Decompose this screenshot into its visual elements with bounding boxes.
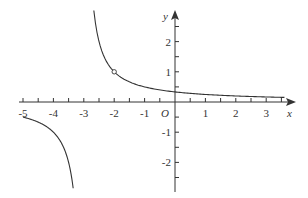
right-branch-curve (94, 10, 285, 97)
function-graph: -5-4-3-2-1123-2-112 x y O (0, 0, 308, 198)
left-branch-curve (23, 117, 73, 188)
y-tick-label: -1 (162, 126, 171, 138)
x-tick-label: 3 (263, 107, 269, 119)
x-tick-label: -1 (140, 107, 149, 119)
x-tick-label: -3 (79, 107, 89, 119)
open-point-marker (112, 70, 116, 74)
axes (19, 10, 296, 192)
open-circle-icon (112, 70, 116, 74)
chart-container: -5-4-3-2-1123-2-112 x y O (0, 0, 308, 198)
x-axis-label: x (286, 107, 292, 119)
y-tick-label: -2 (162, 156, 171, 168)
x-tick-label: -2 (110, 107, 119, 119)
y-tick-label: 2 (166, 36, 172, 48)
x-tick-label: -4 (49, 107, 59, 119)
x-tick-label: 1 (203, 107, 209, 119)
origin-label: O (161, 107, 169, 119)
curve (23, 10, 284, 188)
y-tick-label: 1 (166, 66, 172, 78)
x-tick-label: 2 (233, 107, 239, 119)
y-axis-label: y (162, 10, 168, 22)
